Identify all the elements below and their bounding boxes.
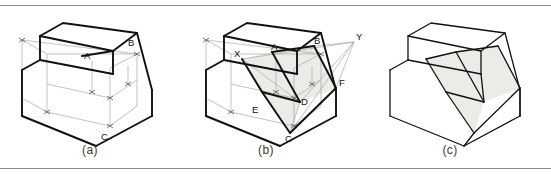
- label-f: F: [339, 77, 345, 88]
- label-x: X: [234, 48, 241, 59]
- label-b: B: [128, 37, 134, 48]
- figure-plate: A B C: [0, 0, 551, 175]
- label-c: C: [101, 131, 108, 142]
- caption-a: (a): [60, 143, 120, 157]
- panel-a-tick-marks: [19, 38, 140, 128]
- caption-c: (c): [420, 143, 480, 157]
- panel-c-shaded-cut-face: [426, 46, 520, 133]
- label-y: Y: [356, 31, 363, 42]
- label-b: B: [314, 35, 320, 46]
- label-a: A: [271, 41, 278, 52]
- label-d: D: [301, 96, 308, 107]
- caption-b: (b): [236, 143, 296, 157]
- label-e: E: [252, 104, 258, 115]
- label-a: A: [84, 50, 91, 61]
- bottom-rule: [0, 168, 551, 169]
